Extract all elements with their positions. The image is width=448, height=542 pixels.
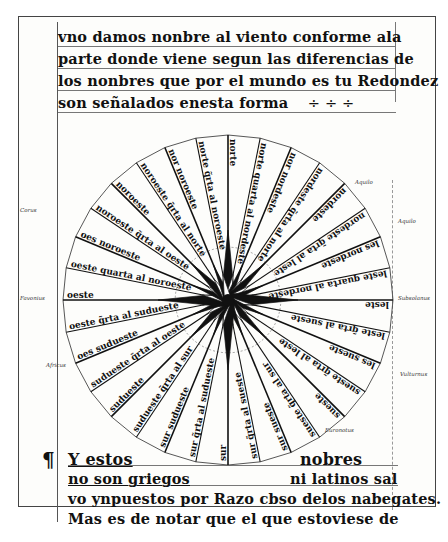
wind-label: sur [218, 444, 228, 461]
wind-label: sur sueste [260, 401, 289, 453]
bottom-line-3: vo ynpuestos por Razo cbso delos nabegat… [68, 490, 441, 507]
wind-label: sueste [312, 391, 342, 421]
bottom-line-2-right: ni latinos sal [290, 470, 398, 487]
wind-label: oeste [67, 290, 94, 300]
wind-label: sudueste [107, 375, 146, 414]
bottom-line-2-left: no son griegos [68, 470, 190, 487]
wind-label: nordeste [310, 186, 349, 225]
margin-note: Euronotus [324, 427, 354, 433]
margin-note: Aquilo [397, 218, 417, 225]
margin-note: Vulturnus [400, 371, 427, 377]
wind-label: sur q̃rta al sudueste [187, 356, 217, 457]
wind-label: noroeste [114, 179, 152, 217]
wind-label: sur q̃rta al sueste [232, 371, 259, 460]
bottom-line-1-right: nobres [300, 450, 362, 469]
margin-note: Subsolanus [398, 295, 430, 301]
margin-note: Favonius [19, 295, 45, 301]
bottom-line-1-left: Y estos [68, 450, 133, 469]
wind-label: leste [365, 300, 389, 310]
margin-note: Aquilo [354, 179, 374, 186]
margin-note: Corus [20, 207, 37, 213]
pilcrow-mark: ¶ [42, 448, 55, 472]
wind-label: norte [228, 139, 238, 166]
wind-label: sueste q̃rta al leste [276, 336, 362, 398]
wind-label: leste q̃rta al sueste [289, 313, 385, 342]
bottom-line-4: Mas es de notar que el que estoviese de [68, 510, 399, 527]
margin-note: Africus [45, 362, 66, 369]
wind-label: les sueste [327, 343, 377, 371]
